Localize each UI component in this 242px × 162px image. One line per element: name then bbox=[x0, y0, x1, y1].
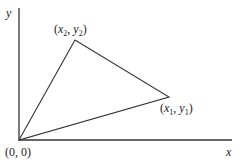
vertex-label-p1: (x1, y1) bbox=[160, 101, 193, 117]
triangle-diagram: y x (0, 0) (x2, y2) (x1, y1) bbox=[0, 0, 242, 162]
triangle bbox=[19, 40, 169, 140]
x-axis-label: x bbox=[225, 145, 232, 159]
y-axis-label: y bbox=[5, 6, 12, 20]
vertex-label-p2: (x2, y2) bbox=[54, 22, 87, 38]
origin-label: (0, 0) bbox=[5, 145, 31, 159]
